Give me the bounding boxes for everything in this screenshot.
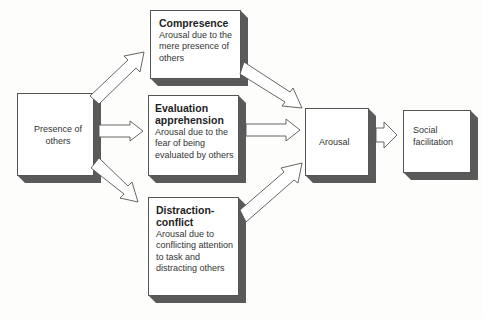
arrow-presence-to-evaluation: [99, 121, 143, 141]
arrow-distraction-to-arousal: [240, 163, 302, 222]
arrow-presence-to-compresence: [90, 52, 144, 104]
arrows-layer: [0, 0, 483, 319]
arrow-arousal-to-social-facilitation: [376, 122, 397, 148]
arrow-evaluation-to-arousal: [246, 119, 300, 141]
arrow-compresence-to-arousal: [240, 62, 302, 108]
arrow-presence-to-distraction: [91, 158, 138, 202]
